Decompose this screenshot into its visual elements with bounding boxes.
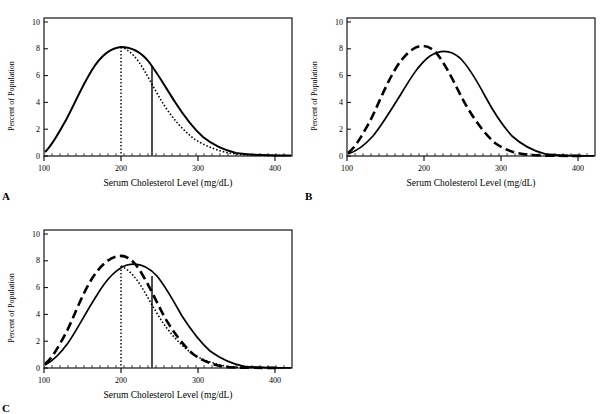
panel-b-ytick-8: 8 <box>339 44 343 53</box>
panel-c-ytick-8: 8 <box>36 256 40 265</box>
panel-b-dashed-curve <box>348 46 584 156</box>
panel-c-ytick-6: 6 <box>36 283 40 292</box>
panel-c-yticks <box>44 234 48 368</box>
panel-a-xticks-major <box>44 156 275 161</box>
panel-a-xtick-300: 300 <box>192 164 204 173</box>
panel-a-xtick-100: 100 <box>38 164 50 173</box>
panel-b-ytick-2: 2 <box>339 125 343 134</box>
panel-b-frame <box>347 18 595 156</box>
panel-a-xlabel: Serum Cholesterol Level (mg/dL) <box>103 178 232 189</box>
panel-c-xlabel: Serum Cholesterol Level (mg/dL) <box>103 390 232 401</box>
panel-a: Percent of Population 10 8 6 4 2 0 <box>0 4 300 194</box>
panel-c-ytick-2: 2 <box>36 337 40 346</box>
panel-b-xticks-major <box>347 156 578 161</box>
panel-a-ylabel: Percent of Population <box>7 61 16 130</box>
panel-b-ylabel: Percent of Population <box>310 61 319 130</box>
panel-c-xtick-300: 300 <box>192 376 204 385</box>
panel-a-ytick-10: 10 <box>32 18 40 27</box>
panel-a-ytick-4: 4 <box>36 98 40 107</box>
panel-b-yticks <box>347 22 351 156</box>
panel-b-xtick-100: 100 <box>341 164 353 173</box>
panel-a-yticks <box>44 22 48 156</box>
panel-c-dotted-curve <box>121 266 283 368</box>
panel-c-solid-curve <box>45 264 291 368</box>
panel-c-dashed-curve <box>45 256 281 368</box>
panel-a-xtick-200: 200 <box>115 164 127 173</box>
panel-b-ytick-10: 10 <box>335 18 343 27</box>
panel-c-xtick-400: 400 <box>269 376 281 385</box>
panel-a-dotted-curve <box>121 47 283 156</box>
panel-b-ytick-0: 0 <box>339 152 343 161</box>
panel-b-plot: Percent of Population 10 8 6 4 2 0 <box>303 4 603 194</box>
panel-c-ytick-4: 4 <box>36 310 40 319</box>
panel-c: Percent of Population 10 8 6 4 2 0 <box>0 216 300 406</box>
panel-b-solid-curve <box>348 51 594 155</box>
panel-c-ytick-0: 0 <box>36 364 40 373</box>
panel-a-ytick-8: 8 <box>36 44 40 53</box>
panel-b-ytick-6: 6 <box>339 71 343 80</box>
panel-b-xlabel: Serum Cholesterol Level (mg/dL) <box>406 178 535 189</box>
panel-a-plot: Percent of Population 10 8 6 4 2 0 <box>0 4 300 194</box>
panel-a-ytick-6: 6 <box>36 71 40 80</box>
panel-c-xtick-200: 200 <box>115 376 127 385</box>
panel-b-xtick-300: 300 <box>495 164 507 173</box>
panel-c-xtick-100: 100 <box>38 376 50 385</box>
panel-a-xtick-400: 400 <box>269 164 281 173</box>
panel-c-ytick-10: 10 <box>32 230 40 239</box>
panel-c-plot: Percent of Population 10 8 6 4 2 0 <box>0 216 300 406</box>
panel-b-label: B <box>305 190 312 202</box>
panel-b: Percent of Population 10 8 6 4 2 0 <box>303 4 603 194</box>
panel-a-label: A <box>2 190 10 202</box>
panel-a-ytick-0: 0 <box>36 152 40 161</box>
panel-b-xtick-200: 200 <box>418 164 430 173</box>
panel-a-frame <box>44 18 292 156</box>
panel-b-ytick-4: 4 <box>339 98 343 107</box>
panel-a-ytick-2: 2 <box>36 125 40 134</box>
panel-b-xtick-400: 400 <box>572 164 584 173</box>
panel-c-ylabel: Percent of Population <box>7 273 16 342</box>
panel-a-solid-curve <box>45 47 291 156</box>
panel-c-label: C <box>2 402 10 414</box>
